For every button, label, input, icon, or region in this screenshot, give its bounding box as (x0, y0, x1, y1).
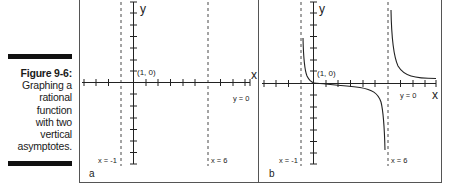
point-label: (1, 0) (317, 69, 336, 78)
curve-right-branch (391, 10, 436, 79)
panel-label: b (269, 168, 275, 179)
asymptote-label-x-6: x = 6 (391, 156, 407, 165)
asymptote-label-x-6: x = 6 (211, 156, 227, 165)
horizontal-asymptote-label: y = 0 (233, 94, 249, 103)
asymptote-label-x-neg1: x = -1 (98, 156, 117, 165)
x-axis-label: x (251, 68, 257, 82)
figure-graphs: y x (1, 0) y = 0 x = -1 x = 6 a (0, 0, 459, 193)
point-label: (1, 0) (137, 68, 156, 77)
panel-a: y x (1, 0) y = 0 x = -1 x = 6 a (82, 2, 257, 179)
panel-label: a (89, 168, 95, 179)
curve-middle-branch (314, 83, 385, 150)
y-axis-label: y (319, 2, 325, 16)
asymptote-label-x-neg1: x = -1 (279, 156, 298, 165)
y-axis-label: y (140, 2, 146, 16)
horizontal-asymptote-label: y = 0 (400, 91, 416, 100)
rational-function-curve (303, 10, 436, 150)
x-axis-label: x (432, 88, 438, 102)
panel-b: y x (1, 0) y = 0 x = -1 x = 6 b (262, 2, 438, 179)
